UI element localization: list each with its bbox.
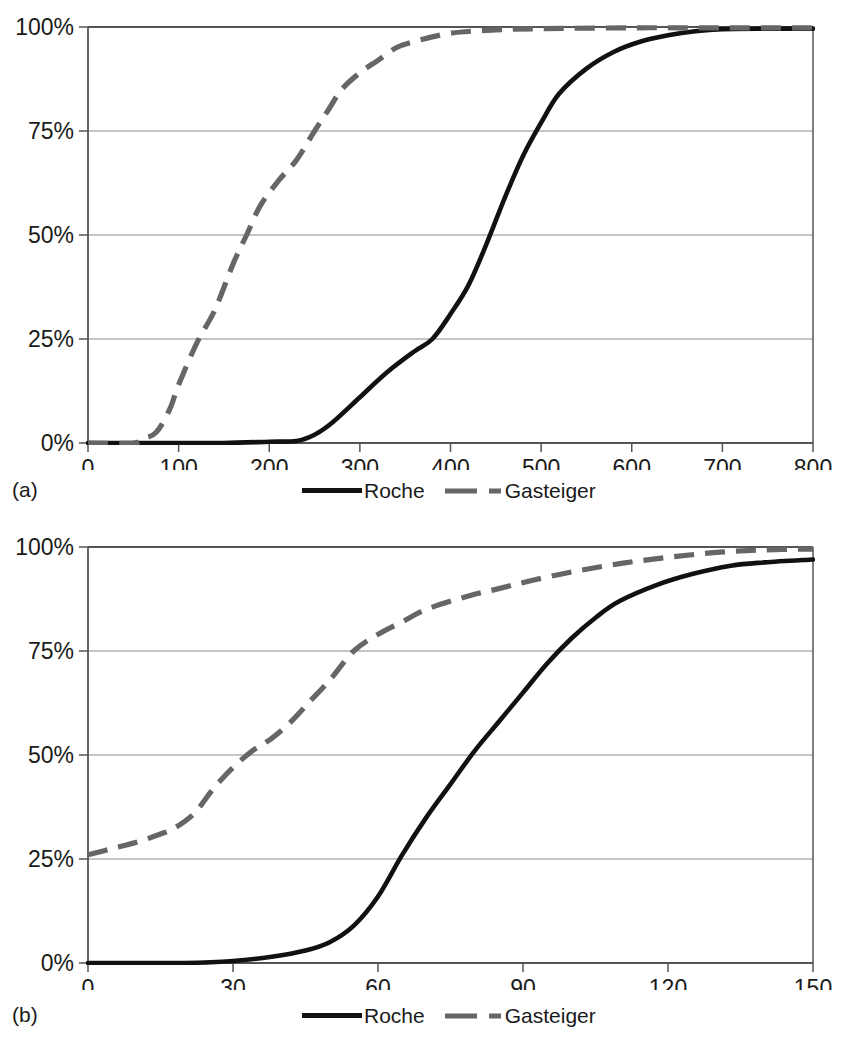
legend-b: Roche Gasteiger bbox=[302, 1005, 596, 1026]
x-tick-label: 500 bbox=[522, 455, 560, 470]
dash-glyph-icon bbox=[443, 480, 503, 501]
line-chart-a: 01002003004005006007008000%25%50%75%100% bbox=[0, 0, 846, 470]
x-tick-label: 0 bbox=[82, 975, 95, 990]
x-tick-label: 600 bbox=[613, 455, 651, 470]
y-tick-label: 50% bbox=[28, 222, 74, 248]
legend-a: Roche Gasteiger bbox=[302, 480, 596, 501]
legend-solid-line-icon bbox=[302, 488, 362, 493]
x-tick-label: 700 bbox=[703, 455, 741, 470]
x-tick-label: 0 bbox=[82, 455, 95, 470]
x-tick-label: 30 bbox=[220, 975, 246, 990]
legend-dashed-line-icon bbox=[443, 1005, 503, 1026]
x-tick-label: 120 bbox=[649, 975, 687, 990]
legend-solid-line-icon bbox=[302, 1013, 362, 1018]
y-tick-label: 25% bbox=[28, 326, 74, 352]
legend-item-gasteiger-a: Gasteiger bbox=[443, 480, 596, 501]
y-tick-label: 75% bbox=[28, 118, 74, 144]
legend-label-roche: Roche bbox=[364, 480, 425, 501]
line-chart-b: 03060901201500%25%50%75%100% bbox=[0, 520, 846, 990]
legend-item-roche-b: Roche bbox=[302, 1005, 425, 1026]
x-tick-label: 90 bbox=[510, 975, 536, 990]
panel-caption-b: (b) bbox=[12, 1003, 38, 1027]
x-tick-label: 150 bbox=[794, 975, 832, 990]
series-line-gasteiger bbox=[88, 549, 813, 855]
figure-container: 01002003004005006007008000%25%50%75%100%… bbox=[0, 0, 846, 1055]
x-tick-label: 60 bbox=[365, 975, 391, 990]
series-line-roche bbox=[88, 29, 813, 443]
y-tick-label: 0% bbox=[41, 950, 74, 976]
series-line-roche bbox=[88, 559, 813, 963]
chart-panel-a: 01002003004005006007008000%25%50%75%100%… bbox=[0, 0, 846, 520]
panel-caption-a: (a) bbox=[12, 478, 38, 502]
x-tick-label: 800 bbox=[794, 455, 832, 470]
chart-panel-b: 03060901201500%25%50%75%100% bbox=[0, 520, 846, 1055]
legend-item-roche-a: Roche bbox=[302, 480, 425, 501]
y-tick-label: 25% bbox=[28, 846, 74, 872]
x-tick-label: 300 bbox=[341, 455, 379, 470]
plot-area-b: 03060901201500%25%50%75%100% bbox=[0, 520, 846, 990]
legend-dashed-line-icon bbox=[443, 480, 503, 501]
plot-area-a: 01002003004005006007008000%25%50%75%100% bbox=[0, 0, 846, 470]
y-tick-label: 100% bbox=[15, 14, 74, 40]
legend-label-gasteiger: Gasteiger bbox=[505, 1005, 596, 1026]
y-tick-label: 100% bbox=[15, 534, 74, 560]
legend-item-gasteiger-b: Gasteiger bbox=[443, 1005, 596, 1026]
dash-glyph-icon bbox=[443, 1005, 503, 1026]
x-tick-label: 200 bbox=[250, 455, 288, 470]
y-tick-label: 50% bbox=[28, 742, 74, 768]
legend-label-gasteiger: Gasteiger bbox=[505, 480, 596, 501]
y-tick-label: 0% bbox=[41, 430, 74, 456]
x-tick-label: 100 bbox=[159, 455, 197, 470]
legend-label-roche: Roche bbox=[364, 1005, 425, 1026]
series-line-gasteiger bbox=[88, 28, 813, 444]
y-tick-label: 75% bbox=[28, 638, 74, 664]
x-tick-label: 400 bbox=[431, 455, 469, 470]
